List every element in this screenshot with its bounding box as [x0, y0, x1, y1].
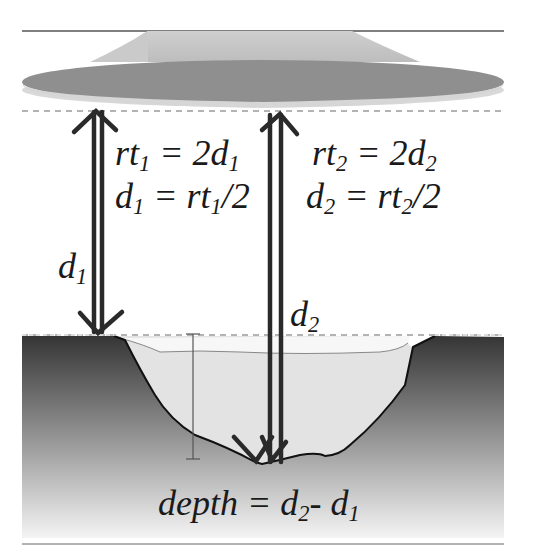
platform-shape — [22, 31, 504, 108]
rt2-equation: rt2 = 2d2 — [312, 135, 437, 176]
depth-equation: depth = d2- d1 — [158, 485, 360, 526]
d1-equation: d1 = rt1/2 — [115, 178, 250, 219]
water-surface — [120, 336, 410, 354]
d2-label: d2 — [290, 296, 319, 337]
d1-label: d1 — [58, 248, 87, 289]
rt1-equation: rt1 = 2d1 — [115, 135, 240, 176]
d2-equation: d2 = rt2/2 — [306, 178, 441, 219]
